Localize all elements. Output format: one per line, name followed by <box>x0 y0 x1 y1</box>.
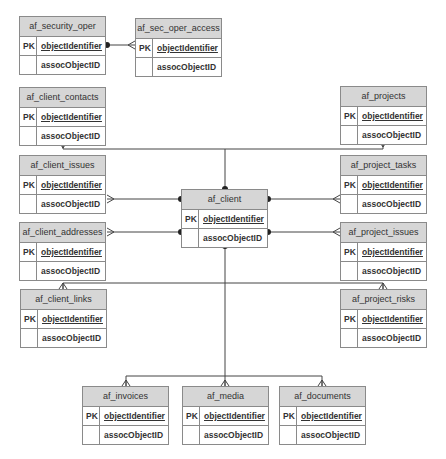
pk-label: PK <box>20 243 37 261</box>
pk-label: PK <box>20 176 37 194</box>
key-empty <box>280 426 297 444</box>
entity-title: af_project_risks <box>341 290 426 310</box>
field: assocObjectID <box>200 426 268 444</box>
pk-field: objectIdentifier <box>100 407 168 425</box>
pk-field: objectIdentifier <box>358 243 426 261</box>
entity-title: af_client <box>182 190 267 210</box>
pk-label: PK <box>183 407 200 425</box>
entity-title: af_security_oper <box>20 17 105 37</box>
entity-title: af_sec_oper_access <box>136 19 221 39</box>
field: assocObjectID <box>358 126 426 144</box>
pk-field: objectIdentifier <box>199 210 267 228</box>
key-empty <box>341 262 358 280</box>
field: assocObjectID <box>358 262 426 280</box>
pk-label: PK <box>280 407 297 425</box>
field: assocObjectID <box>38 329 106 347</box>
pk-field: objectIdentifier <box>358 176 426 194</box>
pk-field: objectIdentifier <box>37 108 105 126</box>
entity-af-documents[interactable]: af_documents PKobjectIdentifier assocObj… <box>279 386 366 445</box>
key-empty <box>20 127 37 145</box>
pk-field: objectIdentifier <box>297 407 365 425</box>
entity-af-security-oper[interactable]: af_security_oper PKobjectIdentifier asso… <box>19 16 106 75</box>
entity-af-client[interactable]: af_client PKobjectIdentifier assocObject… <box>181 189 268 248</box>
pk-label: PK <box>20 108 37 126</box>
field: assocObjectID <box>297 426 365 444</box>
pk-field: objectIdentifier <box>153 39 221 57</box>
field: assocObjectID <box>37 262 105 280</box>
field: assocObjectID <box>37 56 105 74</box>
key-empty <box>20 195 37 213</box>
entity-af-client-issues[interactable]: af_client_issues PKobjectIdentifier asso… <box>19 155 106 214</box>
entity-af-invoices[interactable]: af_invoices PKobjectIdentifier assocObje… <box>82 386 169 445</box>
pk-label: PK <box>83 407 100 425</box>
field: assocObjectID <box>37 195 105 213</box>
entity-title: af_projects <box>341 87 426 107</box>
entity-af-client-contacts[interactable]: af_client_contacts PKobjectIdentifier as… <box>19 87 106 146</box>
entity-title: af_documents <box>280 387 365 407</box>
pk-label: PK <box>341 107 358 125</box>
rel-mid-bus <box>63 283 383 289</box>
pk-field: objectIdentifier <box>358 107 426 125</box>
pk-field: objectIdentifier <box>37 176 105 194</box>
pk-field: objectIdentifier <box>37 243 105 261</box>
entity-af-project-issues[interactable]: af_project_issues PKobjectIdentifier ass… <box>340 222 427 281</box>
field: assocObjectID <box>37 127 105 145</box>
entity-title: af_project_tasks <box>341 156 426 176</box>
entity-af-sec-oper-access[interactable]: af_sec_oper_access PKobjectIdentifier as… <box>135 18 222 77</box>
entity-title: af_project_issues <box>341 223 426 243</box>
pk-label: PK <box>182 210 199 228</box>
field: assocObjectID <box>100 426 168 444</box>
key-empty <box>182 229 199 247</box>
key-empty <box>136 58 153 76</box>
pk-label: PK <box>341 310 358 328</box>
pk-field: objectIdentifier <box>37 37 105 55</box>
entity-af-project-risks[interactable]: af_project_risks PKobjectIdentifier asso… <box>340 289 427 348</box>
pk-field: objectIdentifier <box>38 310 106 328</box>
key-empty <box>83 426 100 444</box>
key-empty <box>21 329 38 347</box>
entity-title: af_client_contacts <box>20 88 105 108</box>
field: assocObjectID <box>153 58 221 76</box>
pk-label: PK <box>341 176 358 194</box>
entity-title: af_client_issues <box>20 156 105 176</box>
entity-af-projects[interactable]: af_projects PKobjectIdentifier assocObje… <box>340 86 427 145</box>
key-empty <box>341 195 358 213</box>
entity-af-media[interactable]: af_media PKobjectIdentifier assocObjectI… <box>182 386 269 445</box>
pk-field: objectIdentifier <box>200 407 268 425</box>
key-empty <box>341 329 358 347</box>
pk-label: PK <box>341 243 358 261</box>
entity-af-project-tasks[interactable]: af_project_tasks PKobjectIdentifier asso… <box>340 155 427 214</box>
entity-title: af_invoices <box>83 387 168 407</box>
pk-label: PK <box>21 310 38 328</box>
rel-top-bus <box>63 141 383 149</box>
key-empty <box>341 126 358 144</box>
key-empty <box>20 56 37 74</box>
field: assocObjectID <box>358 195 426 213</box>
entity-title: af_client_addresses <box>20 223 105 243</box>
pk-label: PK <box>136 39 153 57</box>
key-empty <box>183 426 200 444</box>
pk-label: PK <box>20 37 37 55</box>
field: assocObjectID <box>199 229 267 247</box>
entity-af-client-addresses[interactable]: af_client_addresses PKobjectIdentifier a… <box>19 222 106 281</box>
key-empty <box>20 262 37 280</box>
entity-title: af_client_links <box>21 290 106 310</box>
entity-title: af_media <box>183 387 268 407</box>
pk-field: objectIdentifier <box>358 310 426 328</box>
field: assocObjectID <box>358 329 426 347</box>
entity-af-client-links[interactable]: af_client_links PKobjectIdentifier assoc… <box>20 289 107 348</box>
